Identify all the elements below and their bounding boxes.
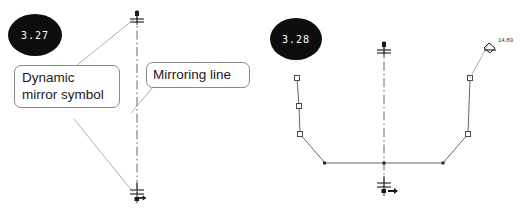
vertex-handle[interactable] [298,132,303,137]
vertex-handle[interactable] [466,132,471,137]
mirrored-sketch-profile[interactable] [297,78,470,163]
leader-dynamic-mirror-bottom [74,119,133,192]
callout-dynamic-mirror-symbol[interactable]: Dynamic mirror symbol [14,65,120,108]
figure-canvas: 3.27 [0,0,525,213]
dynamic-mirror-symbol-top[interactable] [130,10,144,25]
callout-mirroring-line[interactable]: Mirroring line [146,62,250,88]
vertex-handle[interactable] [297,104,302,109]
vertex-point[interactable] [383,162,386,165]
dynamic-mirror-symbol-bottom[interactable] [130,183,146,203]
mirror-symbol-arrow [388,188,398,194]
mirror-symbol-tick [135,11,139,16]
badge-label: 3.27 [21,30,49,41]
figure-badge-3-27: 3.27 [8,14,62,56]
vertex-point[interactable] [442,162,445,165]
figure-badge-3-28: 3.28 [270,18,322,60]
dynamic-mirror-symbol-top[interactable] [377,41,391,57]
dimension-value: 14,89 [498,37,514,43]
figure-3-28: 3.28 [270,18,514,196]
vertex-point[interactable] [323,162,326,165]
dimension-arrow-head [484,43,495,53]
leader-mirroring-line [131,87,153,113]
profile-vertex-handles[interactable] [295,76,473,165]
mirror-symbol-tick [382,189,387,193]
angle-dimension[interactable]: 14,89 [470,37,514,78]
mirror-symbol-tick [382,42,386,47]
badge-label: 3.28 [282,34,310,45]
vertex-handle[interactable] [295,76,300,81]
dynamic-mirror-symbol-bottom[interactable] [377,176,398,196]
leader-dynamic-mirror-top [76,20,133,66]
dimension-leader [470,43,489,78]
